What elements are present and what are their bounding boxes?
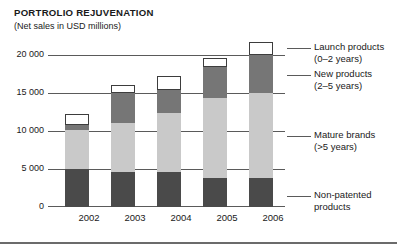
bar-segment-non-patented-2004 — [157, 172, 181, 207]
legend-leader-launch — [287, 48, 311, 49]
bar-2004 — [157, 76, 181, 207]
legend-item-non-patented-products: Non-patented products — [314, 189, 372, 212]
legend-item-mature-brands: Mature brands (>5 years) — [314, 129, 375, 152]
bar-segment-launch-products-2005 — [203, 58, 227, 67]
bar-segment-new-products-2005 — [203, 67, 227, 98]
y-axis-tick-label-5000: 5 000 — [0, 163, 44, 173]
bar-segment-mature-brands-2004 — [157, 113, 181, 172]
legend-item-non-patented-products-line2: products — [314, 201, 372, 213]
bar-segment-non-patented-2002 — [65, 169, 89, 207]
y-axis-tick-label-20000: 20 000 — [0, 49, 44, 59]
legend-item-mature-brands-line2: (>5 years) — [314, 141, 375, 153]
bar-segment-mature-brands-2003 — [111, 123, 135, 172]
bar-segment-mature-brands-2006 — [249, 93, 273, 178]
legend-item-new-products-line2: (2–5 years) — [314, 80, 372, 92]
bar-segment-launch-products-2004 — [157, 76, 181, 90]
bar-segment-non-patented-2005 — [203, 178, 227, 207]
legend-leader-nonpatented — [287, 196, 311, 197]
y-axis-tick-label-15000: 15 000 — [0, 87, 44, 97]
legend-item-new-products: New products (2–5 years) — [314, 68, 372, 91]
bar-2006 — [249, 42, 273, 207]
bar-segment-new-products-2004 — [157, 90, 181, 113]
bottom-divider — [0, 242, 397, 244]
bar-segment-launch-products-2003 — [111, 85, 135, 93]
legend-item-mature-brands-line1: Mature brands — [314, 129, 375, 141]
bar-2005 — [203, 58, 227, 207]
x-axis-tick-label-2006: 2006 — [243, 212, 303, 223]
plot-area — [48, 55, 285, 207]
legend-leader-new — [287, 75, 311, 76]
bar-2003 — [111, 85, 135, 207]
chart-subtitle: (Net sales in USD millions) — [14, 21, 121, 31]
bar-segment-mature-brands-2002 — [65, 130, 89, 169]
bar-segment-launch-products-2002 — [65, 114, 89, 125]
bar-segment-new-products-2003 — [111, 93, 135, 123]
bar-segment-non-patented-2006 — [249, 178, 273, 207]
chart-title: PORTROLIO REJUVENATION — [14, 7, 154, 18]
bar-segment-new-products-2006 — [249, 55, 273, 93]
y-axis-tick-label-0: 0 — [0, 201, 44, 211]
legend-item-non-patented-products-line1: Non-patented — [314, 189, 372, 201]
bar-segment-mature-brands-2005 — [203, 98, 227, 178]
legend-leader-mature — [287, 136, 311, 137]
legend-item-launch-products: Launch products (0–2 years) — [314, 41, 384, 64]
bar-2002 — [65, 114, 89, 207]
chart-figure: PORTROLIO REJUVENATION (Net sales in USD… — [0, 0, 397, 247]
legend-item-new-products-line1: New products — [314, 68, 372, 80]
bar-segment-launch-products-2006 — [249, 42, 273, 55]
legend-item-launch-products-line2: (0–2 years) — [314, 53, 384, 65]
y-axis-tick-label-10000: 10 000 — [0, 125, 44, 135]
bar-segment-non-patented-2003 — [111, 172, 135, 207]
legend-item-launch-products-line1: Launch products — [314, 41, 384, 53]
